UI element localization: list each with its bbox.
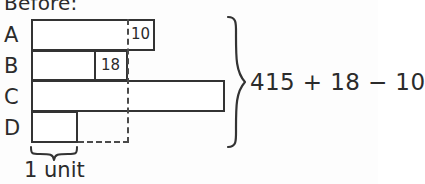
unit-label: 1 unit	[24, 160, 85, 181]
bar-a-value-label: 10	[131, 27, 150, 42]
bar-row-d	[31, 111, 78, 143]
diagram-caption: Before:	[4, 0, 78, 13]
total-brace	[224, 14, 252, 150]
bar-b-divider	[94, 50, 96, 81]
row-label-a: A	[4, 25, 26, 46]
row-label-c: C	[4, 87, 26, 108]
row-label-d: D	[4, 118, 26, 139]
reference-dashed-line	[127, 19, 129, 143]
bar-d-dashed-extension	[78, 141, 129, 143]
row-label-b: B	[4, 56, 26, 77]
bar-b-value-label: 18	[101, 58, 120, 73]
total-expression: 415 + 18 − 10	[250, 71, 425, 94]
